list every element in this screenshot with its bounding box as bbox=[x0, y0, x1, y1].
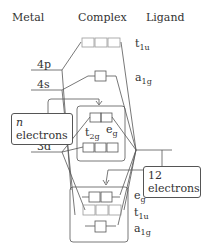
ligand-electrons-count: 12 bbox=[148, 169, 196, 182]
bottom-a1g-label: a1g bbox=[134, 223, 151, 237]
middle-t2g-label: t2g bbox=[85, 127, 100, 141]
orbital-4p-label: 4p bbox=[37, 59, 51, 70]
bottom-t1u-label: t1u bbox=[134, 207, 149, 221]
ligand-electrons-callout: 12 electrons bbox=[143, 166, 201, 198]
middle-eg-label: eg bbox=[106, 124, 118, 138]
orbital-4s-label: 4s bbox=[37, 79, 50, 90]
top-a1g-label: a1g bbox=[135, 72, 152, 86]
top-t1u-label: t1u bbox=[135, 38, 150, 52]
n-electrons-text: electrons bbox=[16, 129, 68, 142]
n-electrons-callout: n electrons bbox=[11, 113, 73, 145]
ligand-electrons-text: electrons bbox=[148, 182, 200, 195]
n-electrons-count: n bbox=[16, 116, 68, 129]
